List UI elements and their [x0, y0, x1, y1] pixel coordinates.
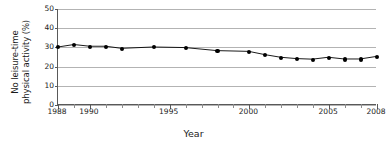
x-tick-mark — [122, 104, 123, 108]
x-tick-mark — [265, 104, 266, 108]
plot-area — [57, 9, 376, 105]
y-tick-label: 10 — [38, 82, 54, 90]
x-tick-mark — [186, 104, 187, 108]
x-tick-label: 2005 — [319, 108, 338, 116]
x-tick-mark — [281, 104, 282, 108]
data-point — [88, 45, 92, 49]
x-tick-label: 2000 — [239, 108, 258, 116]
data-point — [72, 43, 76, 47]
data-point — [120, 47, 124, 51]
y-axis-title: No leisure-time physical activity (%) — [10, 7, 32, 117]
x-axis-title: Year — [0, 128, 387, 139]
y-tick-label: 40 — [38, 24, 54, 32]
data-point — [359, 57, 363, 61]
y-tick-label: 30 — [38, 43, 54, 51]
data-point — [311, 58, 315, 62]
x-tick-label: 1995 — [159, 108, 178, 116]
x-tick-label: 1990 — [79, 108, 98, 116]
x-tick-mark — [218, 104, 219, 108]
x-tick-mark — [233, 104, 234, 108]
x-tick-mark — [138, 104, 139, 108]
x-tick-mark — [345, 104, 346, 108]
x-tick-mark — [106, 104, 107, 108]
y-tick-label: 50 — [38, 5, 54, 13]
y-axis-title-line-2: physical activity (%) — [21, 7, 32, 117]
x-axis-tick-labels: 198819901995200020052008 — [57, 108, 376, 120]
x-tick-mark — [361, 104, 362, 108]
x-tick-mark — [74, 104, 75, 108]
chart-figure: No leisure-time physical activity (%) 50… — [0, 0, 387, 157]
x-tick-mark — [202, 104, 203, 108]
x-tick-mark — [154, 104, 155, 108]
x-tick-label: 2008 — [366, 108, 385, 116]
data-point — [343, 57, 347, 61]
x-tick-mark — [313, 104, 314, 108]
data-point — [215, 49, 219, 53]
data-point — [375, 55, 379, 59]
y-tick-label: 20 — [38, 63, 54, 71]
data-point — [104, 45, 108, 49]
x-tick-label: 1988 — [47, 108, 66, 116]
data-point — [184, 46, 188, 50]
x-tick-mark — [297, 104, 298, 108]
y-axis-title-line-1: No leisure-time — [10, 7, 21, 117]
